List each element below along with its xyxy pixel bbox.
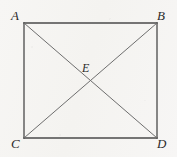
vertex-label-b: B	[157, 9, 165, 22]
geometry-figure-canvas: A B C D E	[0, 0, 177, 157]
vertex-label-a: A	[11, 9, 19, 22]
geometry-figure-svg	[0, 0, 177, 157]
vertex-label-d: D	[157, 137, 166, 150]
vertex-label-c: C	[11, 137, 20, 150]
vertex-label-e: E	[82, 62, 89, 75]
